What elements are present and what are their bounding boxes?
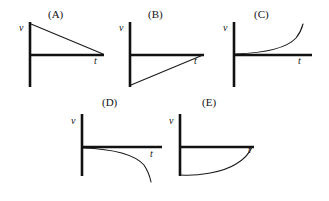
panel-d-plot [80,114,175,190]
panel-b: (B) v t [118,8,218,88]
multi-panel-velocity-time-figure: (A) v t (B) v t (C) v t (D) v t [0,0,329,201]
panel-e-curve [181,147,252,175]
panel-a-curve [31,24,103,54]
panel-c-curve [235,24,303,54]
panel-b-caption: (B) [148,8,163,20]
panel-a: (A) v t [18,8,118,88]
panel-b-curve [131,55,203,85]
panel-e-v-axis-label: v [169,116,173,126]
panel-d: (D) v t [70,96,175,188]
panel-c-plot [232,22,327,94]
panel-c-caption: (C) [254,8,269,20]
panel-e-caption: (E) [202,96,216,108]
panel-c-v-axis-label: v [223,23,227,33]
panel-a-plot [28,22,118,94]
panel-e: (E) v t [166,96,276,188]
panel-e-plot [178,114,273,190]
panel-b-plot [128,22,218,94]
panel-a-v-axis-label: v [19,23,23,33]
panel-b-v-axis-label: v [119,23,123,33]
panel-d-v-axis-label: v [71,116,75,126]
panel-d-curve [83,148,151,182]
panel-d-caption: (D) [102,96,117,108]
panel-a-caption: (A) [48,8,63,20]
panel-c: (C) v t [222,8,327,88]
